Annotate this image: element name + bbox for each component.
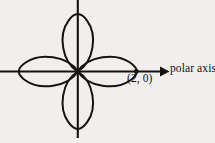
axes-group xyxy=(0,0,170,138)
point-coordinate-label: (2, 0) xyxy=(127,73,153,85)
origin-node xyxy=(75,69,80,74)
polar-plot-figure: (2, 0) polar axis xyxy=(0,0,215,143)
polar-axis-arrowhead xyxy=(160,67,170,77)
polar-axis-label: polar axis xyxy=(170,63,215,75)
